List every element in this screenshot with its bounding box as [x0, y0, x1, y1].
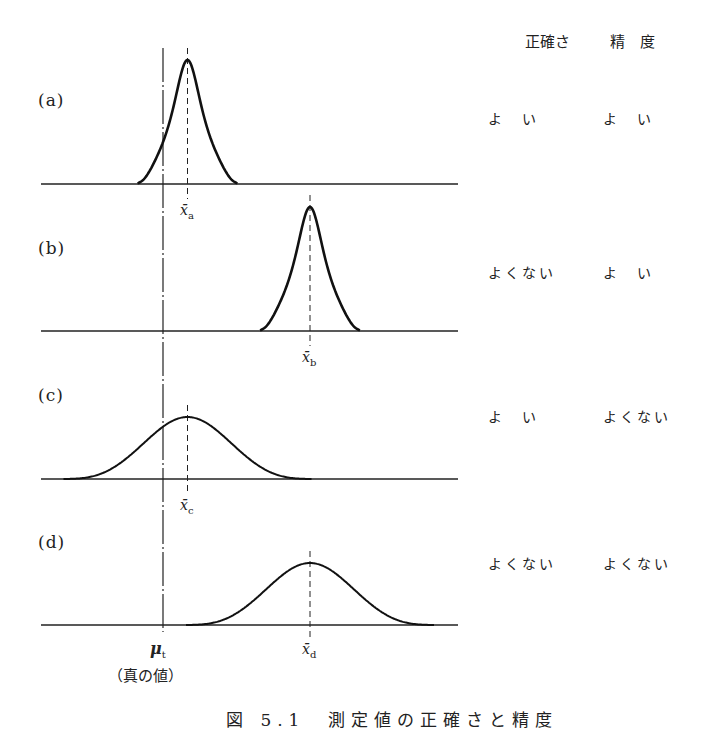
- accuracy-header: 正確さ: [525, 30, 570, 51]
- accuracy-d: よくない: [488, 553, 556, 573]
- precision-a: よ い: [603, 108, 654, 128]
- mean-label-b: x̄b: [302, 349, 316, 368]
- precision-c: よくない: [603, 406, 671, 426]
- accuracy-a: よ い: [488, 108, 539, 128]
- true-value-note: （真の値）: [108, 664, 183, 685]
- panel-label-b: (b): [38, 238, 65, 258]
- true-value-symbol: μt: [150, 639, 166, 660]
- precision-d: よくない: [603, 553, 671, 573]
- precision-b: よ い: [603, 262, 654, 282]
- mean-label-d: x̄d: [302, 641, 316, 660]
- figure-caption: 図 5.1 測定値の正確さと精度: [226, 706, 558, 731]
- mean-label-a: x̄a: [180, 202, 194, 221]
- mean-label-c: x̄c: [180, 497, 194, 516]
- accuracy-b: よくない: [488, 262, 556, 282]
- panel-label-a: (a): [38, 90, 64, 110]
- panel-label-d: (d): [38, 532, 65, 552]
- precision-header: 精 度: [610, 30, 655, 51]
- accuracy-c: よ い: [488, 406, 539, 426]
- panel-label-c: (c): [38, 385, 64, 405]
